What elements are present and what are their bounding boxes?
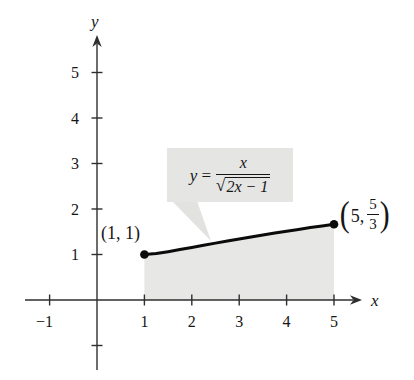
formula-fraction: x √2x − 1 <box>216 155 270 195</box>
point2-frac-den: 3 <box>369 215 377 232</box>
x-tick-label: 4 <box>283 313 291 330</box>
x-axis-label: x <box>370 291 379 310</box>
x-tick-label: 5 <box>330 313 338 330</box>
curve-endpoint-dot <box>330 220 339 229</box>
x-tick-label: 1 <box>140 313 148 330</box>
y-tick-label: 3 <box>71 155 79 172</box>
point-label-1-1: (1, 1) <box>101 223 140 244</box>
point2-frac-num: 5 <box>367 197 379 214</box>
formula-lhs: y = <box>190 167 211 184</box>
formula-numerator: x <box>238 155 249 174</box>
x-tick-label: 3 <box>235 313 243 330</box>
shaded-region <box>144 224 334 300</box>
curve-endpoint-dot <box>140 250 149 259</box>
point-label-5-5-3: ( 5, 5 3 ) <box>339 197 390 232</box>
y-tick-label: 2 <box>71 201 79 218</box>
close-paren: ) <box>380 197 390 232</box>
y-tick-label: 4 <box>71 110 79 127</box>
formula-denominator: √2x − 1 <box>216 175 270 195</box>
callout-tail <box>172 201 211 241</box>
point2-x-value: 5, <box>351 207 365 225</box>
y-tick-label: 1 <box>71 246 79 263</box>
function-graph-figure: −11234512345 x y y = x √2x − 1 (1, 1) ( … <box>0 0 414 380</box>
point2-fraction: 5 3 <box>367 197 379 232</box>
open-paren: ( <box>340 197 350 232</box>
x-tick-label: −1 <box>36 313 53 330</box>
radical-sign: √ <box>216 177 225 194</box>
formula-callout: y = x √2x − 1 <box>167 148 293 202</box>
y-tick-label: 5 <box>71 64 79 81</box>
y-axis-label: y <box>89 12 99 31</box>
x-tick-label: 2 <box>188 313 196 330</box>
radicand: 2x − 1 <box>225 177 270 195</box>
